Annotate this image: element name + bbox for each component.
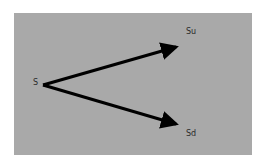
up-arrow <box>43 47 176 85</box>
node-label-up: Su <box>186 28 196 36</box>
down-arrow <box>43 85 176 124</box>
node-label-root: S <box>33 79 38 87</box>
node-label-down: Sd <box>186 130 196 138</box>
tree-arrows <box>0 0 265 166</box>
